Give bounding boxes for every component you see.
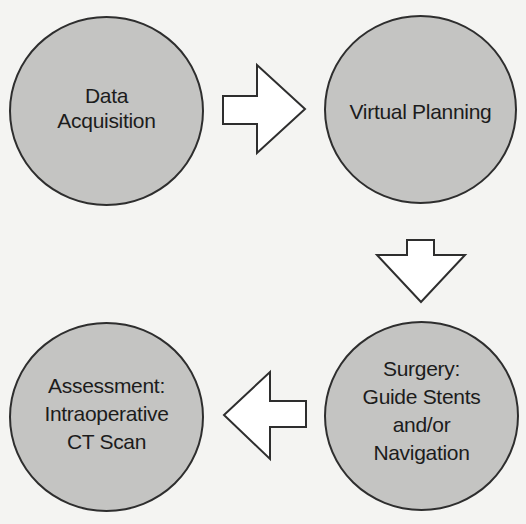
- node-label: Surgery: Guide Stents and/or Navigation: [363, 355, 481, 467]
- node-label: Data Acquisition: [57, 83, 155, 133]
- node-label: Virtual Planning: [350, 99, 492, 124]
- process-diagram: ​ Data Acquisition Virtual Planning Surg…: [0, 0, 526, 524]
- arrow-left-icon: [224, 372, 306, 459]
- arrow-right-icon: [223, 65, 305, 153]
- node-label: Assessment: Intraoperative CT Scan: [44, 372, 168, 456]
- node-virtual-planning: Virtual Planning: [324, 15, 517, 204]
- node-assessment: Assessment: Intraoperative CT Scan: [9, 322, 204, 512]
- arrow-down-icon: [377, 240, 465, 302]
- node-data-acquisition: Data Acquisition: [9, 16, 204, 206]
- node-surgery: Surgery: Guide Stents and/or Navigation: [324, 321, 519, 511]
